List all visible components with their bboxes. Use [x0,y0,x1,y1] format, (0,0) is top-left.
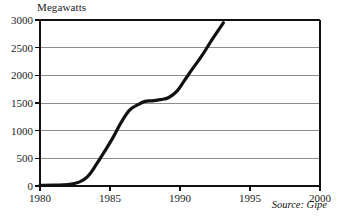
source-annotation: Source: Gipe [272,199,327,210]
chart-canvas [0,0,337,219]
chart-figure: Megawatts 050010001500200025003000 19801… [0,0,337,219]
